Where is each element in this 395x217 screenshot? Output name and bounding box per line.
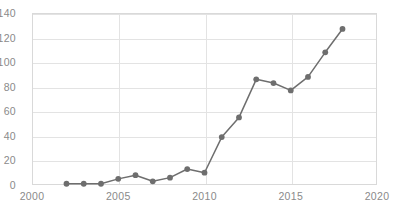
data-point[interactable]	[184, 166, 190, 172]
line-chart: 02040608010012014020002005201020152020	[0, 0, 395, 217]
y-axis-tick-label: 60	[0, 105, 16, 117]
data-point[interactable]	[305, 74, 311, 80]
x-axis-tick-label: 2000	[9, 190, 55, 202]
data-point[interactable]	[253, 76, 259, 82]
data-point[interactable]	[64, 181, 70, 187]
x-axis-tick-label: 2005	[95, 190, 141, 202]
x-axis-tick-label: 2015	[268, 190, 314, 202]
data-point[interactable]	[115, 176, 121, 182]
data-point[interactable]	[167, 175, 173, 181]
data-point[interactable]	[81, 181, 87, 187]
data-point[interactable]	[202, 170, 208, 176]
y-axis-tick-label: 100	[0, 56, 16, 68]
series-line	[67, 29, 343, 184]
data-point[interactable]	[288, 88, 294, 94]
data-point[interactable]	[236, 115, 242, 121]
data-point[interactable]	[271, 80, 277, 86]
y-axis-tick-label: 140	[0, 7, 16, 19]
data-point[interactable]	[322, 49, 328, 55]
data-point[interactable]	[98, 181, 104, 187]
data-point[interactable]	[219, 134, 225, 140]
x-axis-tick-label: 2020	[354, 190, 395, 202]
data-point[interactable]	[340, 26, 346, 32]
y-axis-tick-label: 40	[0, 130, 16, 142]
y-axis-tick-label: 80	[0, 81, 16, 93]
data-point[interactable]	[133, 172, 139, 178]
data-point[interactable]	[150, 178, 156, 184]
y-axis-tick-label: 120	[0, 32, 16, 44]
x-axis-tick-label: 2010	[182, 190, 228, 202]
y-axis-tick-label: 20	[0, 154, 16, 166]
series-layer	[32, 13, 377, 185]
